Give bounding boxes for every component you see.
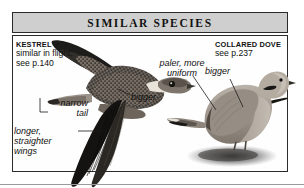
annotation-bigger-right: bigger (205, 66, 230, 76)
kestrel-caption: KESTREL ♂ ♀ similar in flight; see p.140 (16, 40, 94, 69)
annotation-narrow-line2: tail (34, 108, 88, 118)
kestrel-page-ref: see p.140 (16, 59, 94, 69)
annotation-narrow-line1: narrow (34, 98, 88, 108)
annotation-paler-line2: uniform (151, 68, 213, 78)
collared-dove-caption: COLLARED DOVE see p.237 (215, 41, 291, 59)
annotation-bigger-left: bigger (131, 92, 156, 102)
annotation-paler-uniform: paler, more uniform (151, 58, 213, 78)
annotation-narrow-tail: narrow tail (34, 98, 88, 118)
annotation-paler-line1: paler, more (151, 58, 213, 68)
collared-dove-page-ref: see p.237 (215, 49, 291, 59)
annotation-longer-wings: longer, straighter wings (14, 126, 76, 156)
annotation-longer-line2: straighter (14, 136, 76, 146)
annotation-longer-line3: wings (14, 146, 76, 156)
annotation-longer-line1: longer, (14, 126, 76, 136)
page-title: SIMILAR SPECIES (12, 12, 288, 33)
similar-species-figure: SIMILAR SPECIES (0, 0, 304, 188)
bottom-divider (0, 184, 304, 185)
